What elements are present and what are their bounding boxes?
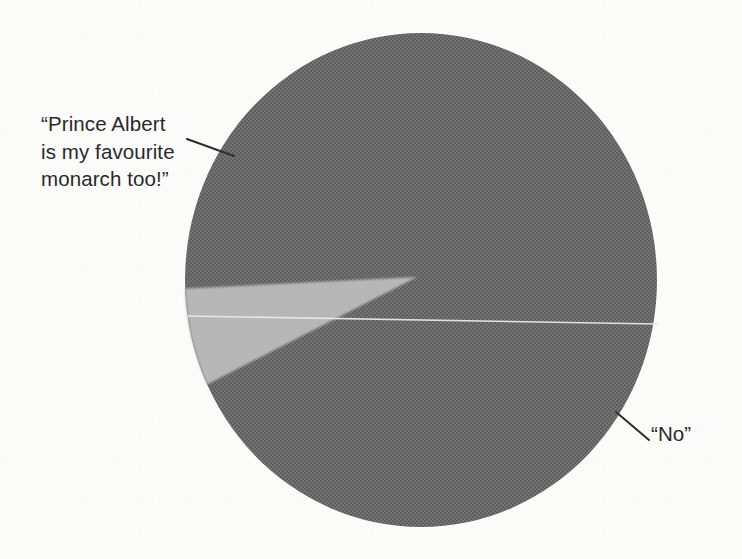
- pie-label-no: “No”: [651, 420, 691, 447]
- pie-chart-figure: “Prince Albert is my favourite monarch t…: [0, 0, 742, 559]
- leader-line-no: [616, 412, 649, 440]
- pie-chart-canvas: [0, 0, 742, 559]
- pie-base-ellipse: [185, 33, 657, 527]
- pie-label-prince-albert: “Prince Albert is my favourite monarch t…: [41, 110, 231, 193]
